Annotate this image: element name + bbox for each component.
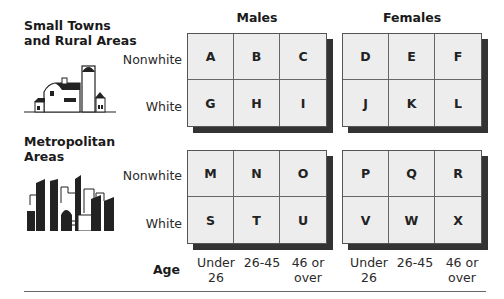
cell-L: L xyxy=(435,80,481,126)
age-text: 46 or xyxy=(439,255,485,270)
age-label: Age xyxy=(140,262,180,277)
cell-A: A xyxy=(188,34,234,80)
cell-N: N xyxy=(234,151,280,197)
row-label-white-metro: White xyxy=(102,216,182,231)
cell-E: E xyxy=(389,34,435,80)
cell-K: K xyxy=(389,80,435,126)
age-text: Under xyxy=(346,255,392,270)
bottom-separator xyxy=(24,291,486,292)
cell-O: O xyxy=(280,151,326,197)
female-age-under-26: Under 26 xyxy=(346,255,392,285)
age-text: 46 or xyxy=(285,255,331,270)
age-text: over xyxy=(285,270,331,285)
metro-title-line2: Areas xyxy=(24,149,115,164)
metro-female-grid: P Q R V W X xyxy=(342,150,482,244)
row-label-white-rural: White xyxy=(102,99,182,114)
cell-G: G xyxy=(188,80,234,126)
cell-J: J xyxy=(343,80,389,126)
females-header: Females xyxy=(342,10,482,25)
cell-R: R xyxy=(435,151,481,197)
cell-H: H xyxy=(234,80,280,126)
cell-U: U xyxy=(280,197,326,243)
row-label-nonwhite-rural: Nonwhite xyxy=(102,52,182,67)
cell-D: D xyxy=(343,34,389,80)
cell-F: F xyxy=(435,34,481,80)
rural-title-line2: and Rural Areas xyxy=(24,33,137,48)
rural-title-line1: Small Towns xyxy=(24,18,137,33)
female-age-46-over: 46 or over xyxy=(439,255,485,285)
female-age-26-45: 26-45 xyxy=(392,255,438,270)
age-text: 26 xyxy=(346,270,392,285)
cell-C: C xyxy=(280,34,326,80)
cell-I: I xyxy=(280,80,326,126)
metro-male-grid: M N O S T U xyxy=(187,150,327,244)
age-text: 26-45 xyxy=(392,255,438,270)
cell-T: T xyxy=(234,197,280,243)
male-age-46-over: 46 or over xyxy=(285,255,331,285)
cell-S: S xyxy=(188,197,234,243)
age-text: 26-45 xyxy=(239,255,285,270)
cell-B: B xyxy=(234,34,280,80)
cell-P: P xyxy=(343,151,389,197)
cell-X: X xyxy=(435,197,481,243)
age-text: over xyxy=(439,270,485,285)
rural-male-grid: A B C G H I xyxy=(187,33,327,127)
metro-section-title: Metropolitan Areas xyxy=(24,134,115,164)
metro-title-line1: Metropolitan xyxy=(24,134,115,149)
cell-Q: Q xyxy=(389,151,435,197)
row-label-nonwhite-metro: Nonwhite xyxy=(102,168,182,183)
age-text: Under xyxy=(193,255,239,270)
cell-W: W xyxy=(389,197,435,243)
rural-section-title: Small Towns and Rural Areas xyxy=(24,18,137,48)
male-age-under-26: Under 26 xyxy=(193,255,239,285)
males-header: Males xyxy=(187,10,327,25)
cell-V: V xyxy=(343,197,389,243)
age-text: 26 xyxy=(193,270,239,285)
cell-M: M xyxy=(188,151,234,197)
rural-female-grid: D E F J K L xyxy=(342,33,482,127)
male-age-26-45: 26-45 xyxy=(239,255,285,270)
